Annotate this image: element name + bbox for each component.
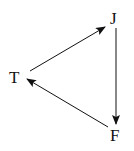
- diagram-canvas: J T F: [0, 0, 134, 151]
- node-t: T: [9, 69, 19, 86]
- node-f: F: [110, 127, 119, 144]
- edge-f-to-t: [27, 79, 108, 127]
- node-j: J: [110, 10, 117, 27]
- edge-t-to-j: [30, 27, 105, 71]
